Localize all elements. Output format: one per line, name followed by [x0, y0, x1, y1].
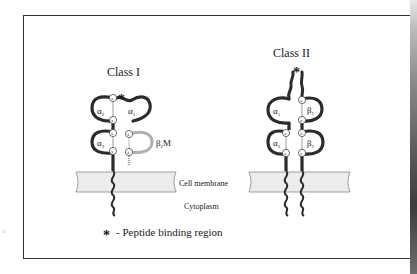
- svg-text:s: s: [300, 151, 302, 156]
- svg-text:s: s: [111, 131, 113, 136]
- class1-peptide-asterisk: *: [118, 92, 125, 107]
- svg-text:s: s: [111, 96, 113, 101]
- svg-text:s: s: [284, 151, 286, 156]
- cell-membrane-label: Cell membrane: [179, 179, 229, 188]
- svg-text:s: s: [300, 118, 302, 123]
- svg-text:s: s: [284, 131, 286, 136]
- svg-text:s: s: [300, 131, 302, 136]
- svg-text:s: s: [127, 150, 129, 155]
- class2-peptide-asterisk: *: [293, 65, 300, 80]
- mhc-diagram: Class I Class II: [0, 0, 417, 274]
- membrane-left: [76, 172, 176, 192]
- legend-asterisk: *: [103, 228, 110, 243]
- svg-text:s: s: [127, 132, 129, 137]
- legend-text: - Peptide binding region: [116, 226, 223, 238]
- cytoplasm-label: Cytoplasm: [184, 202, 219, 211]
- figure-stage: Class I Class II: [0, 0, 417, 274]
- svg-text:s: s: [111, 149, 113, 154]
- scan-edge-shadow: [410, 0, 417, 274]
- figure-frame: [24, 16, 412, 259]
- svg-text:s: s: [111, 118, 113, 123]
- class2-title: Class II: [273, 46, 310, 60]
- stray-mark: c: [3, 227, 6, 235]
- class1-b2m-label: β2M: [156, 138, 171, 149]
- class1-title: Class I: [107, 65, 140, 79]
- svg-text:s: s: [300, 98, 302, 103]
- class2-beta-top: [301, 72, 302, 99]
- membrane-right: [249, 172, 350, 192]
